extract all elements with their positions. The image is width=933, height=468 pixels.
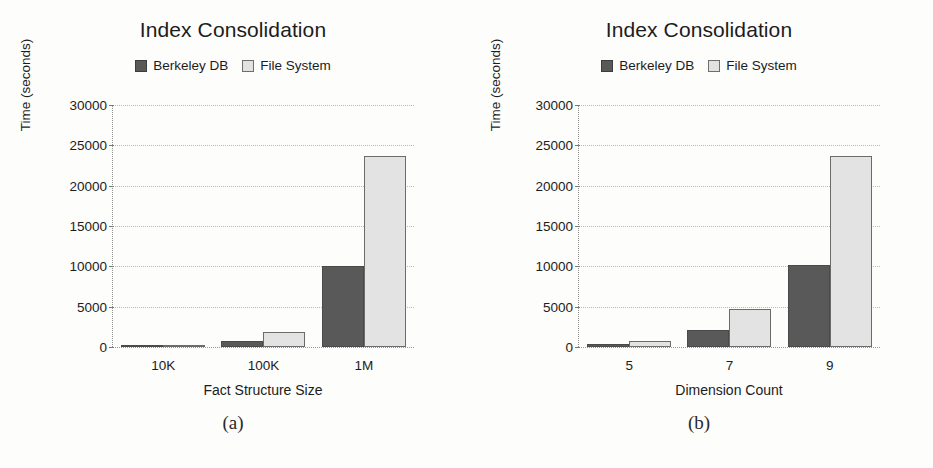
figure-b: Index Consolidation Berkeley DB File Sys… [466,0,932,468]
y-tick-label: 20000 [43,178,107,193]
bar-group: 1M [314,105,414,347]
y-axis-title-a: Time (seconds) [18,10,33,160]
y-gridline [113,347,414,348]
figure-caption-a: (a) [0,412,466,434]
bar-berkeley-db [687,330,729,347]
y-gridline [579,347,880,348]
y-tick-label: 15000 [509,219,573,234]
y-tick-label: 10000 [43,259,107,274]
bar-berkeley-db [221,341,263,347]
y-tick-label: 30000 [43,98,107,113]
figure-a: Index Consolidation Berkeley DB File Sys… [0,0,466,468]
y-axis-title-b: Time (seconds) [488,10,503,160]
y-tick-label: 0 [509,340,573,355]
x-tick-label: 7 [679,358,779,373]
y-tick-label: 10000 [509,259,573,274]
bar-berkeley-db [788,265,830,347]
y-tick-label: 15000 [43,219,107,234]
y-tick-label: 5000 [43,299,107,314]
bar-berkeley-db [587,344,629,347]
bar-group: 9 [780,105,880,347]
x-tick-label: 5 [579,358,679,373]
figure-caption-b: (b) [466,412,932,434]
bar-file-system [629,341,671,347]
bars-layer: 10K100K1M [113,105,414,347]
y-tick-label: 30000 [509,98,573,113]
x-tick-label: 1M [314,358,414,373]
x-tick-label: 100K [213,358,313,373]
bar-group: 100K [213,105,313,347]
x-tick-label: 10K [113,358,213,373]
bar-group: 5 [579,105,679,347]
y-tick-label: 20000 [509,178,573,193]
plot-wrap-a: Time (seconds) 0500010000150002000025000… [0,0,466,468]
plot-area-a: 05000100001500020000250003000010K100K1M [112,105,414,347]
y-tick-label: 0 [43,340,107,355]
bar-berkeley-db [121,345,163,347]
y-tick-label: 25000 [509,138,573,153]
bar-file-system [263,332,305,347]
bar-file-system [830,156,872,347]
bars-layer: 579 [579,105,880,347]
x-axis-title-b: Dimension Count [578,382,880,398]
bar-file-system [729,309,771,347]
y-tick-mark [575,347,580,348]
bar-group: 10K [113,105,213,347]
y-tick-mark [109,347,114,348]
plot-wrap-b: Time (seconds) 0500010000150002000025000… [466,0,932,468]
x-axis-title-a: Fact Structure Size [112,382,414,398]
bar-group: 7 [679,105,779,347]
figure-page: Index Consolidation Berkeley DB File Sys… [0,0,933,468]
bar-file-system [163,345,205,347]
x-tick-label: 9 [780,358,880,373]
bar-berkeley-db [322,266,364,347]
y-tick-label: 5000 [509,299,573,314]
bar-file-system [364,156,406,347]
plot-area-b: 050001000015000200002500030000579 [578,105,880,347]
y-tick-label: 25000 [43,138,107,153]
